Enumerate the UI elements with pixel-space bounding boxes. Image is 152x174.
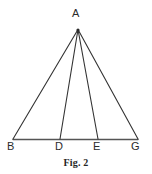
vertex-label-B: B <box>7 141 14 152</box>
figure-caption: Fig. 2 <box>0 157 152 168</box>
vertex-label-A: A <box>72 8 79 19</box>
segment-AG <box>78 30 138 140</box>
vertex-label-D: D <box>55 141 63 152</box>
segment-AB <box>13 30 78 140</box>
geometry-diagram <box>0 0 152 174</box>
vertex-point-A <box>76 28 79 31</box>
segment-AD <box>60 30 78 140</box>
figure-container: A B D E G Fig. 2 <box>0 0 152 174</box>
vertex-label-E: E <box>93 141 100 152</box>
vertex-label-G: G <box>131 141 140 152</box>
segment-AE <box>78 30 98 140</box>
